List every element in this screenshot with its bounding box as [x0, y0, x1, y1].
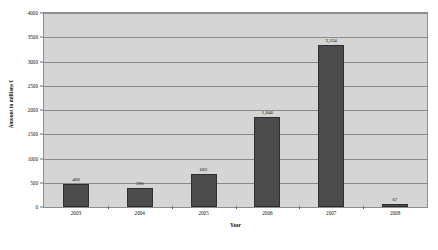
x-tick-label: 2006 [262, 210, 272, 216]
bar-slot: 3,334 [299, 13, 363, 207]
bar [127, 188, 153, 207]
bar-slot: 67 [363, 13, 427, 207]
bar-value-label: 1,846 [262, 110, 273, 115]
bar [382, 204, 408, 207]
bars-layer: 4683906831,8463,33467 [44, 13, 427, 207]
x-axis-title: Year [43, 222, 428, 228]
x-tick-mark [108, 206, 109, 209]
y-tick-label: 3000 [28, 59, 38, 65]
y-tick-label: 500 [30, 180, 38, 186]
y-tick-label: 0 [35, 204, 38, 210]
bar-value-label: 67 [393, 197, 398, 202]
x-tick-mark [299, 206, 300, 209]
x-tick-label: 2003 [71, 210, 81, 216]
bar [254, 117, 280, 207]
x-tick-label: 2005 [198, 210, 208, 216]
y-axis-title-text: Amount in millions € [8, 80, 14, 129]
bar-slot: 1,846 [236, 13, 300, 207]
bar [318, 45, 344, 207]
bar-value-label: 683 [200, 167, 208, 172]
y-tick-label: 2500 [28, 83, 38, 89]
x-tick-mark [236, 206, 237, 209]
bar-slot: 468 [44, 13, 108, 207]
x-axis-tick-labels: 200320042005200620072008 [43, 210, 428, 222]
bar [191, 174, 217, 207]
y-tick-label: 1000 [28, 156, 38, 162]
x-tick-mark [172, 206, 173, 209]
bar-chart: Amount in millions € 0500100015002000250… [0, 0, 438, 250]
bar-slot: 683 [172, 13, 236, 207]
y-axis-tick-labels: 05001000150020002500300035004000 [18, 12, 40, 208]
x-tick-label: 2007 [326, 210, 336, 216]
plot-area: 4683906831,8463,33467 [43, 12, 428, 208]
y-tick-label: 3500 [28, 34, 38, 40]
bar [63, 184, 89, 207]
y-tick-label: 4000 [28, 10, 38, 16]
bar-value-label: 390 [136, 181, 144, 186]
x-tick-label: 2008 [390, 210, 400, 216]
y-axis-title: Amount in millions € [4, 0, 18, 208]
bar-value-label: 3,334 [326, 38, 337, 43]
x-tick-label: 2004 [135, 210, 145, 216]
y-tick-label: 1500 [28, 131, 38, 137]
y-tick-label: 2000 [28, 107, 38, 113]
bar-value-label: 468 [72, 177, 80, 182]
x-tick-mark [363, 206, 364, 209]
bar-slot: 390 [108, 13, 172, 207]
